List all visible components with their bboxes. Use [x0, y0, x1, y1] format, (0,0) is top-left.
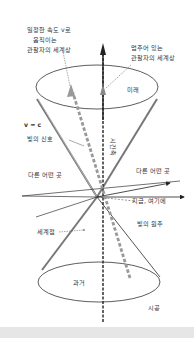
here-now-label: 지금, 여기에	[132, 197, 166, 205]
v-equals-c-label: v = c	[24, 121, 42, 128]
light-signal-label: 빛의 신호	[27, 135, 53, 143]
moving-observer-label-3: 관찰자의 세계상	[27, 46, 71, 54]
light-cone-diagram: 일정한 속도 v로 움직이는 관찰자의 세계상 멈추어 있는 관찰자의 세계상 …	[0, 0, 194, 338]
elsewhere-right-label: 다른 어떤 곳	[136, 167, 170, 175]
past-cone	[38, 197, 160, 302]
light-cone-label: 빛의 원추	[137, 220, 163, 228]
elsewhere-left-label: 다른 어떤 곳	[28, 171, 62, 179]
time-axis-label: 시간축	[109, 138, 117, 156]
footer-bar	[0, 327, 194, 338]
moving-observer-worldline	[67, 84, 130, 278]
past-label: 과거	[73, 279, 85, 287]
moving-observer-label-2: 움직이는	[33, 36, 57, 44]
stationary-observer-label-2: 관찰자의 세계상	[131, 54, 175, 62]
future-label: 미래	[127, 86, 139, 94]
stationary-observer-label-1: 멈추어 있는	[131, 44, 163, 52]
leader-lines	[59, 52, 131, 232]
worldline-label: 세계점	[37, 228, 55, 236]
labels: 일정한 속도 v로 움직이는 관찰자의 세계상 멈추어 있는 관찰자의 세계상 …	[24, 26, 175, 311]
moving-observer-label-1: 일정한 속도 v로	[27, 26, 71, 34]
spacetime-label: 시공	[148, 304, 160, 311]
